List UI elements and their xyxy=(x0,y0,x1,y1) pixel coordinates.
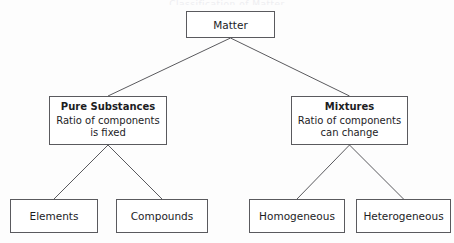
edge-pure-substances-to-compounds xyxy=(108,145,162,199)
node-matter-label: Matter xyxy=(213,19,248,31)
node-pure-substances-title: Pure Substances xyxy=(61,101,155,114)
edge-pure-substances-to-elements xyxy=(54,145,108,199)
node-heterogeneous[interactable]: Heterogeneous xyxy=(356,199,451,233)
node-mixtures-detail-1: Ratio of components xyxy=(298,115,401,128)
node-compounds-label: Compounds xyxy=(131,210,194,222)
node-pure-substances[interactable]: Pure Substances Ratio of components is f… xyxy=(49,96,167,145)
node-pure-substances-detail-1: Ratio of components xyxy=(56,115,159,128)
edge-matter-to-mixtures xyxy=(231,38,350,96)
node-heterogeneous-label: Heterogeneous xyxy=(363,210,443,222)
node-elements-label: Elements xyxy=(30,210,79,222)
node-compounds[interactable]: Compounds xyxy=(116,199,208,233)
diagram-canvas: Classification of Matter Matter Pure Sub… xyxy=(0,0,454,243)
node-mixtures-title: Mixtures xyxy=(325,101,374,114)
node-elements[interactable]: Elements xyxy=(10,199,98,233)
edge-matter-to-pure-substances xyxy=(108,38,231,96)
node-mixtures[interactable]: Mixtures Ratio of components can change xyxy=(291,96,408,145)
node-homogeneous-label: Homogeneous xyxy=(259,210,335,222)
node-matter[interactable]: Matter xyxy=(186,11,275,38)
node-mixtures-detail-2: can change xyxy=(321,127,379,140)
node-pure-substances-detail-2: is fixed xyxy=(90,127,126,140)
edge-mixtures-to-heterogeneous xyxy=(350,145,404,199)
edge-mixtures-to-homogeneous xyxy=(297,145,350,199)
node-homogeneous[interactable]: Homogeneous xyxy=(249,199,345,233)
